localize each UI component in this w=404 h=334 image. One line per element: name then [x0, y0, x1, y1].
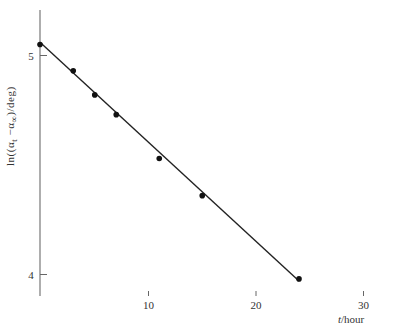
data-point	[113, 112, 119, 118]
data-point	[296, 276, 302, 282]
y-ticks: 45	[28, 50, 47, 281]
chart-area: 45 102030	[0, 0, 404, 334]
data-point	[199, 193, 205, 199]
x-ticks: 102030	[143, 291, 370, 311]
data-point	[70, 68, 76, 74]
x-tick-label: 20	[251, 299, 263, 311]
fit-line	[40, 42, 299, 281]
x-axis-label: t/hour	[338, 313, 364, 325]
data-point	[156, 156, 162, 162]
x-tick-label: 10	[143, 299, 155, 311]
fit-line	[40, 42, 299, 281]
y-tick-label: 5	[28, 50, 34, 62]
data-point	[37, 42, 43, 48]
y-tick-label: 4	[28, 269, 34, 281]
y-axis-label: ln((αt −α∞)/deg)	[4, 6, 28, 166]
x-tick-label: 30	[358, 299, 370, 311]
data-point	[92, 92, 98, 98]
